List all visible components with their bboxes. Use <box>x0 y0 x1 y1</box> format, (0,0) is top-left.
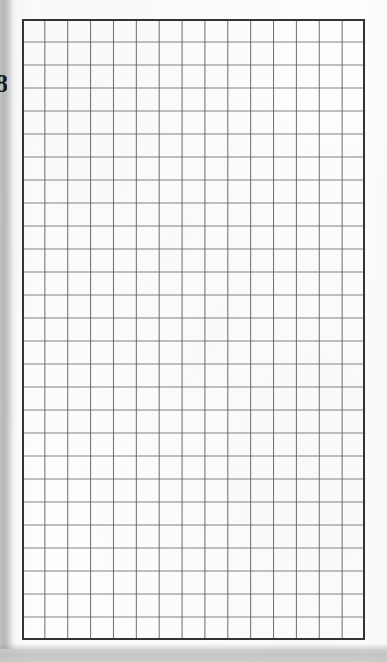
graph-paper-grid <box>22 19 365 640</box>
grid-area <box>22 19 365 640</box>
bottom-surface-band <box>0 649 387 662</box>
graph-paper-page: 8 <box>0 0 387 662</box>
margin-glyph: 8 <box>0 70 7 98</box>
left-edge-shadow <box>9 0 16 651</box>
